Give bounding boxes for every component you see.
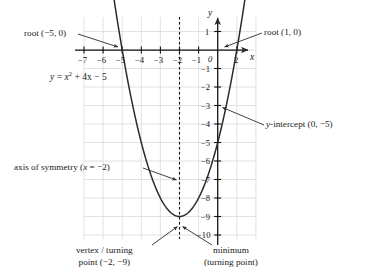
annotation-axis-of-symmetry: axis of symmetry (x = −2) — [14, 162, 110, 174]
annotation-minimum: minimum (turning point) — [204, 245, 258, 268]
equation-lhs: y — [50, 71, 54, 82]
aos-suffix: = −2) — [87, 162, 110, 172]
aos-prefix: axis of symmetry ( — [14, 162, 83, 172]
x-tick-label--3: −3 — [154, 55, 163, 65]
vertex-line-2: point (−2, −9) — [76, 257, 133, 269]
y-tick-label--10: −10 — [197, 230, 210, 240]
y-tick-label--1: −1 — [201, 64, 210, 74]
y-tick-label--2: −2 — [201, 82, 210, 92]
vertex-line-1: vertex / turning — [76, 245, 133, 257]
y-tick-label--6: −6 — [201, 156, 210, 166]
annotation-root-left: root (−5, 0) — [24, 28, 66, 40]
equation-rest: + 4x − 5 — [74, 71, 106, 82]
x-tick-label-0: 0 — [208, 54, 212, 64]
x-tick-label--2: −2 — [173, 55, 182, 65]
y-intercept-rest: -intercept (0, −5) — [270, 119, 333, 129]
y-tick-label--7: −7 — [201, 175, 210, 185]
y-tick-label--5: −5 — [201, 138, 210, 148]
x-tick-label--5: −5 — [116, 55, 125, 65]
y-tick-label--3: −3 — [201, 101, 210, 111]
x-tick-label--1: −1 — [192, 55, 201, 65]
equation-exponent: 2 — [69, 70, 72, 77]
x-axis-label: x — [250, 52, 254, 62]
y-tick-label-1: 1 — [205, 27, 209, 37]
annotation-root-right: root (1, 0) — [264, 27, 301, 39]
equation-label: y = x2 + 4x − 5 — [50, 70, 107, 82]
x-tick-label--4: −4 — [135, 55, 144, 65]
annotation-vertex: vertex / turning point (−2, −9) — [76, 245, 133, 268]
equation-equals: = — [57, 71, 62, 82]
graph-canvas — [0, 0, 365, 276]
y-tick-label--9: −9 — [201, 212, 210, 222]
y-axis-label: y — [208, 8, 212, 18]
minimum-line-1: minimum — [204, 245, 258, 257]
y-tick-label--4: −4 — [201, 119, 210, 129]
x-axis — [75, 47, 248, 54]
x-tick-label-2: 2 — [234, 55, 238, 65]
y-tick-label--8: −8 — [201, 193, 210, 203]
minimum-line-2: (turning point) — [204, 257, 258, 269]
x-tick-label--6: −6 — [97, 55, 106, 65]
annotation-y-intercept: y-intercept (0, −5) — [266, 119, 333, 131]
parabola-graph-figure: −7 −6 −5 −4 −3 −2 −1 0 2 1 −1 −2 −3 −4 −… — [0, 0, 365, 276]
x-tick-label--7: −7 — [78, 55, 87, 65]
